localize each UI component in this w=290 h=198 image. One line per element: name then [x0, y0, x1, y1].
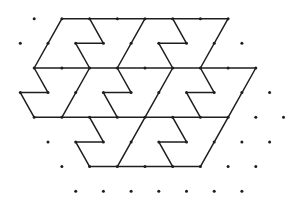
grid-dot	[130, 190, 133, 193]
tile-edge	[159, 19, 187, 68]
grid-dot	[199, 165, 202, 168]
grid-dot	[116, 67, 119, 70]
grid-dot	[60, 165, 63, 168]
grid-dot	[185, 140, 188, 143]
grid-dot	[185, 190, 188, 193]
grid-dot	[116, 165, 119, 168]
grid-dot	[33, 67, 36, 70]
grid-dot	[185, 42, 188, 45]
tile-edge	[76, 19, 104, 68]
grid-dot	[171, 17, 174, 20]
grid-dot	[171, 165, 174, 168]
grid-dot	[268, 91, 271, 94]
grid-dot	[227, 67, 230, 70]
grid-dot	[240, 42, 243, 45]
grid-dot	[116, 17, 119, 20]
grid-dot	[240, 190, 243, 193]
grid-dot	[74, 190, 77, 193]
tile-edge	[20, 68, 48, 117]
grid-dot	[171, 67, 174, 70]
grid-dot	[130, 140, 133, 143]
grid-dot	[47, 140, 50, 143]
grid-dot	[157, 140, 160, 143]
grid-dot	[144, 17, 147, 20]
grid-dot	[19, 42, 22, 45]
tile-edges	[20, 19, 256, 167]
grid-dot	[130, 91, 133, 94]
grid-dot	[60, 67, 63, 70]
grid-dot	[130, 42, 133, 45]
grid-dot	[227, 17, 230, 20]
grid-dot	[47, 42, 50, 45]
grid-dot	[102, 190, 105, 193]
grid-dot	[60, 17, 63, 20]
grid-dot	[102, 91, 105, 94]
grid-dot	[171, 116, 174, 119]
grid-dot	[33, 17, 36, 20]
grid-dot	[240, 140, 243, 143]
grid-dot	[74, 91, 77, 94]
grid-dot	[157, 91, 160, 94]
grid-dot	[213, 42, 216, 45]
z-tile-tessellation-diagram	[0, 0, 290, 198]
tile-edge	[76, 117, 104, 166]
grid-dot	[74, 140, 77, 143]
grid-dot	[199, 116, 202, 119]
grid-dot	[227, 165, 230, 168]
grid-dot	[282, 116, 285, 119]
grid-dot	[74, 42, 77, 45]
grid-dot	[102, 140, 105, 143]
grid-dot	[144, 116, 147, 119]
grid-dot	[254, 116, 257, 119]
grid-dot	[47, 91, 50, 94]
tile-edge	[103, 68, 131, 117]
grid-dot	[60, 116, 63, 119]
grid-dot	[33, 116, 36, 119]
grid-dot	[254, 165, 257, 168]
grid-dot	[144, 165, 147, 168]
grid-dot	[102, 42, 105, 45]
grid-dot	[185, 91, 188, 94]
grid-dot	[199, 67, 202, 70]
grid-dot	[88, 165, 91, 168]
grid-dot	[213, 91, 216, 94]
grid-dot	[116, 116, 119, 119]
grid-dot	[227, 116, 230, 119]
grid-dot	[144, 67, 147, 70]
grid-dot	[240, 91, 243, 94]
grid-dot	[157, 42, 160, 45]
grid-dot	[254, 67, 257, 70]
grid-dot	[157, 190, 160, 193]
grid-dot	[88, 17, 91, 20]
grid-dot	[88, 116, 91, 119]
tile-edge	[187, 68, 215, 117]
grid-dot	[88, 67, 91, 70]
tile-edge	[159, 117, 187, 166]
grid-dot	[199, 17, 202, 20]
grid-dot	[213, 190, 216, 193]
grid-dot	[268, 140, 271, 143]
grid-dot	[213, 140, 216, 143]
grid-dot	[19, 91, 22, 94]
